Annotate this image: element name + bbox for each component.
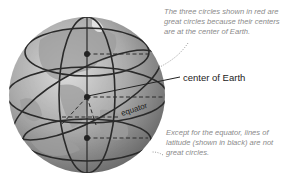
note-line: Except for the equator, lines of	[166, 128, 273, 138]
note-line: are at the center of Earth.	[164, 27, 280, 37]
great-circle-note: The three circles shown in red are great…	[164, 7, 280, 37]
bottom-note-pointer	[151, 152, 163, 155]
north-center-dot	[84, 51, 90, 57]
earth-center-dot	[84, 94, 90, 100]
note-line: great circles because their centers	[164, 17, 280, 27]
note-line: latitude (shown in black) are not	[166, 138, 273, 148]
globe: equator	[2, 17, 171, 173]
center-of-earth-label: center of Earth	[183, 72, 245, 83]
latitude-note: Except for the equator, lines of latitud…	[166, 128, 273, 158]
note-line: great circles.	[166, 148, 273, 158]
top-note-pointer	[156, 43, 188, 69]
south-center-dot	[84, 135, 90, 141]
note-line: The three circles shown in red are	[164, 7, 280, 17]
